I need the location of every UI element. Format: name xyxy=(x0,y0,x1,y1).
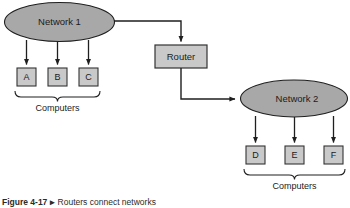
figure-caption-separator-icon: ▸ xyxy=(50,197,56,207)
node-router: Router xyxy=(155,45,207,68)
group-computers-left: Computers xyxy=(15,91,100,113)
host-f-label: F xyxy=(331,150,337,160)
node-host-e: E xyxy=(285,146,304,164)
network-2-label: Network 2 xyxy=(276,93,319,104)
host-group-left: A B C xyxy=(17,68,98,86)
node-network-1: Network 1 xyxy=(5,3,115,42)
node-host-a: A xyxy=(17,68,36,86)
computers-left-label: Computers xyxy=(35,103,80,113)
node-host-b: B xyxy=(48,68,67,86)
host-d-label: D xyxy=(252,150,259,160)
host-group-right: D E F xyxy=(246,146,343,164)
edge-network1-to-hosts xyxy=(27,40,89,65)
figure-container: Network 1 A B C Computers xyxy=(0,0,350,208)
host-c-label: C xyxy=(85,72,92,82)
edge-router-network2-path xyxy=(181,68,235,99)
node-host-c: C xyxy=(79,68,98,86)
computers-right-label: Computers xyxy=(272,181,317,191)
host-a-label: A xyxy=(23,72,29,82)
figure-caption: Figure 4-17 ▸ Routers connect networks xyxy=(2,197,348,207)
node-network-2: Network 2 xyxy=(241,80,348,117)
figure-caption-number: Figure 4-17 xyxy=(2,197,47,207)
host-b-label: B xyxy=(54,72,60,82)
group-computers-right: Computers xyxy=(244,169,345,191)
edge-router-to-network2 xyxy=(181,68,235,99)
computers-right-brace xyxy=(244,169,345,180)
node-host-d: D xyxy=(246,146,265,164)
edge-network1-router-path xyxy=(114,21,181,42)
router-label: Router xyxy=(167,51,196,62)
edge-network2-to-hosts xyxy=(256,116,334,143)
host-e-label: E xyxy=(291,150,297,160)
network-1-label: Network 1 xyxy=(38,16,81,27)
node-host-f: F xyxy=(324,146,343,164)
figure-caption-text: Routers connect networks xyxy=(58,197,156,207)
computers-left-brace xyxy=(15,91,100,102)
network-topology-diagram: Network 1 A B C Computers xyxy=(0,0,350,208)
edge-network1-to-router xyxy=(114,21,181,42)
